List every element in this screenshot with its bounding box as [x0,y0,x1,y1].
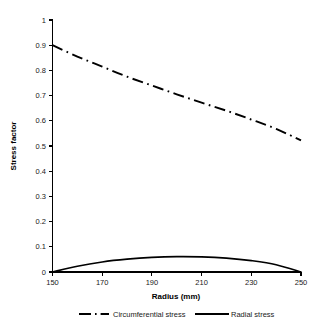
y-tick-label: 0.7 [36,91,46,100]
y-axis-title: Stress factor [9,122,18,171]
y-tick-label: 0.1 [36,242,46,251]
y-tick-label: 0.5 [36,142,46,151]
y-tick-label: 0.3 [36,192,46,201]
y-tick-label: 0.2 [36,217,46,226]
legend-label-radial: Radial stress [231,310,275,319]
y-tick-label: 0.6 [36,116,46,125]
x-tick-label: 230 [245,278,258,287]
x-tick-label: 190 [146,278,159,287]
y-tick-label: 0.8 [36,66,46,75]
chart-plot: Stress factor 0 0.1 0.2 0.3 0.4 0.5 0.6 … [0,0,325,330]
x-axis-title: Radius (mm) [152,292,201,301]
y-tick-label: 0.9 [36,41,46,50]
x-axis-ticks: 150 170 190 210 230 250 [46,272,307,287]
chart-container: Stress factor 0 0.1 0.2 0.3 0.4 0.5 0.6 … [0,0,325,330]
series-radial-stress [53,257,302,272]
x-tick-label: 150 [46,278,59,287]
legend-label-circumferential: Circumferential stress [113,310,186,319]
y-tick-label: 1 [42,16,46,25]
y-tick-label: 0.4 [36,167,46,176]
y-tick-label: 0 [42,268,46,277]
x-tick-label: 170 [96,278,109,287]
y-axis-ticks: 0 0.1 0.2 0.3 0.4 0.5 0.6 0.7 0.8 0.9 1 [36,16,53,277]
x-tick-label: 250 [295,278,308,287]
x-tick-label: 210 [195,278,208,287]
series-circumferential-stress [53,45,302,140]
chart-legend: Circumferential stress Radial stress [79,310,275,319]
